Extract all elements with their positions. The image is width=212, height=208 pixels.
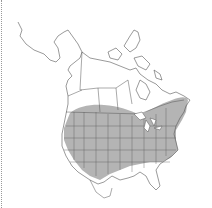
province-borders	[68, 52, 132, 112]
range-map: Range map of North America	[0, 0, 212, 208]
hudson-bay-outline	[136, 80, 150, 100]
north-america-map	[0, 0, 212, 208]
range-shading	[64, 97, 188, 180]
alaska-outline	[18, 22, 82, 80]
arctic-islands-outline	[108, 30, 162, 80]
